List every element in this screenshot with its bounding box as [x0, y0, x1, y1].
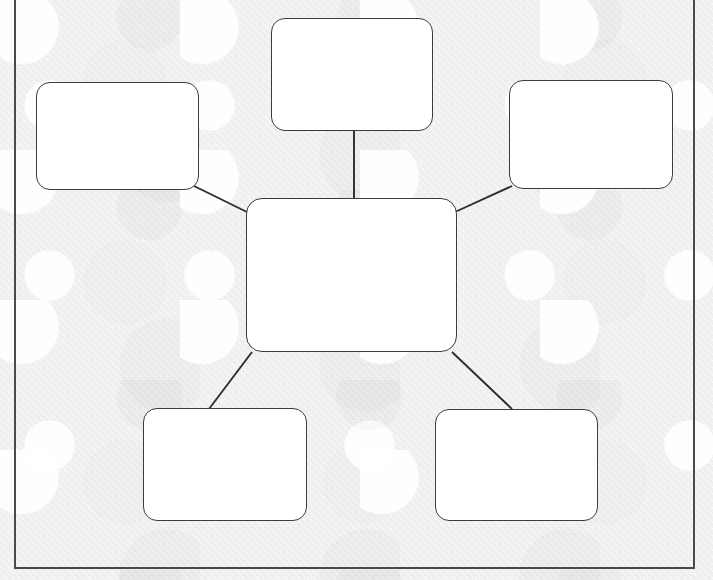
node-right[interactable] [509, 80, 673, 189]
mind-map-worksheet [0, 0, 713, 580]
node-bottom-left[interactable] [143, 408, 307, 521]
diagram-canvas[interactable] [0, 0, 713, 580]
connector-central-to-left [194, 186, 249, 213]
node-bottom-right[interactable] [435, 409, 598, 521]
connector-central-to-right [455, 186, 512, 212]
node-central[interactable] [246, 198, 457, 352]
node-left[interactable] [36, 82, 199, 190]
node-top-center[interactable] [271, 18, 433, 131]
connector-central-to-bottom-left [209, 352, 252, 409]
connector-central-to-bottom-right [452, 352, 512, 409]
